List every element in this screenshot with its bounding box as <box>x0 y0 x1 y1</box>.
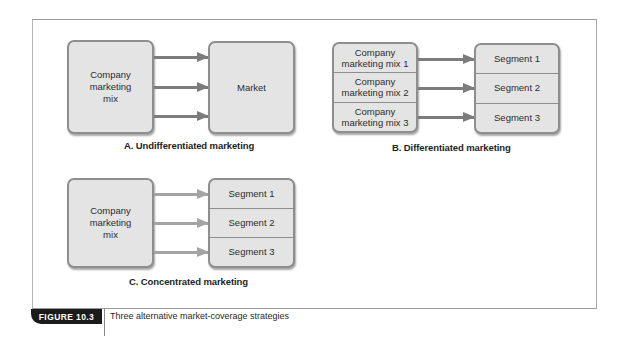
arrow-icon <box>154 56 208 59</box>
arrow-icon <box>154 251 208 254</box>
marketing-mix-2: Company marketing mix 2 <box>334 72 416 101</box>
arrow-icon <box>418 58 474 61</box>
market-box: Market <box>208 41 295 134</box>
arrow-icon <box>154 115 208 118</box>
arrow-icon <box>418 116 474 119</box>
marketing-mix-stack: Company marketing mix 1 Company marketin… <box>332 42 418 133</box>
caption-divider <box>104 309 105 336</box>
panel-b-title: B. Differentiated marketing <box>392 142 511 153</box>
segment-2: Segment 2 <box>210 208 293 237</box>
company-marketing-mix-box: Company marketing mix <box>67 40 154 134</box>
segment-3: Segment 3 <box>210 237 293 266</box>
arrow-icon <box>154 193 208 196</box>
arrow-icon <box>154 86 208 89</box>
arrow-icon <box>154 222 208 225</box>
segment-1: Segment 1 <box>210 180 293 208</box>
figure-number-badge: FIGURE 10.3 <box>31 309 102 324</box>
panel-c-title: C. Concentrated marketing <box>129 276 248 287</box>
segment-2: Segment 2 <box>476 73 558 102</box>
segment-stack: Segment 1 Segment 2 Segment 3 <box>208 178 295 268</box>
segment-1: Segment 1 <box>476 45 558 73</box>
segment-stack: Segment 1 Segment 2 Segment 3 <box>474 43 560 134</box>
marketing-mix-3: Company marketing mix 3 <box>334 102 416 131</box>
company-marketing-mix-label: Company marketing mix <box>90 69 132 105</box>
figure-caption: Three alternative market-coverage strate… <box>110 311 289 321</box>
market-label: Market <box>237 82 266 94</box>
panel-a-title: A. Undifferentiated marketing <box>124 140 254 151</box>
company-marketing-mix-label: Company marketing mix <box>90 205 132 241</box>
arrow-icon <box>418 87 474 90</box>
segment-3: Segment 3 <box>476 103 558 132</box>
marketing-mix-1: Company marketing mix 1 <box>334 44 416 72</box>
company-marketing-mix-box: Company marketing mix <box>67 178 154 268</box>
